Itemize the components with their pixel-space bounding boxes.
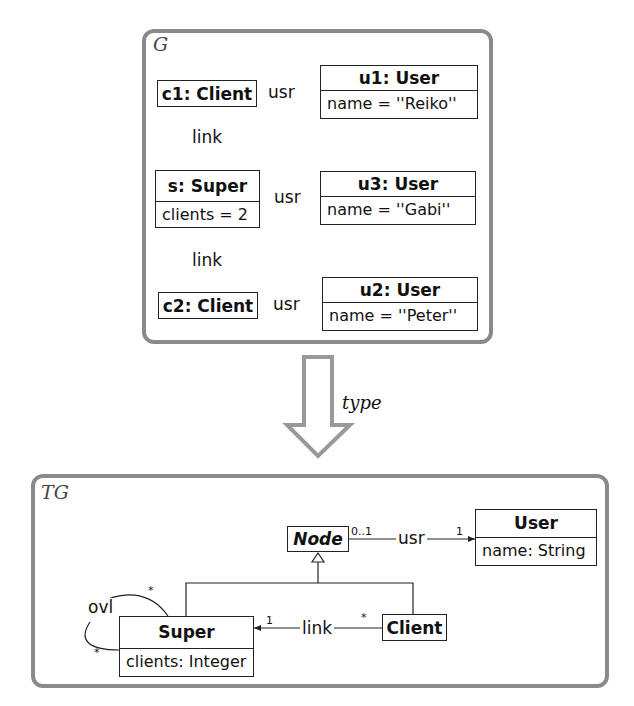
node-attribute: name = ''Reiko'' — [321, 90, 477, 117]
node-u3-user[interactable]: u3: User name = ''Gabi'' — [320, 171, 476, 225]
type-arrow — [287, 357, 350, 456]
node-u2-user[interactable]: u2: User name = ''Peter'' — [322, 277, 478, 331]
type-node-client[interactable]: Client — [382, 614, 447, 641]
node-c2-client[interactable]: c2: Client — [158, 292, 258, 319]
node-title: u1: User — [321, 66, 477, 90]
type-graph-frame — [31, 474, 609, 688]
node-title: s: Super — [156, 171, 259, 201]
link-target-multiplicity: 1 — [266, 615, 273, 626]
node-title: c2: Client — [163, 296, 254, 316]
edge-label-ovl: ovl — [86, 598, 115, 616]
node-attribute: name = ''Peter'' — [323, 302, 477, 329]
edge-label-c2-u2: usr — [271, 295, 302, 313]
instance-graph-label: G — [153, 33, 168, 55]
type-node-node[interactable]: Node — [287, 526, 349, 552]
node-title: u2: User — [323, 278, 477, 302]
node-c1-client[interactable]: c1: Client — [157, 80, 257, 107]
type-node-user[interactable]: User name: String — [475, 509, 597, 566]
node-attribute: clients = 2 — [156, 201, 259, 228]
node-title: Node — [293, 529, 343, 549]
node-title: c1: Client — [162, 84, 253, 104]
node-attribute: clients: Integer — [120, 648, 253, 675]
node-title: User — [476, 510, 596, 537]
node-title: u3: User — [321, 172, 475, 196]
edge-label-c1-s: link — [190, 128, 224, 146]
usr-target-multiplicity: 1 — [456, 526, 463, 537]
node-s-super[interactable]: s: Super clients = 2 — [155, 170, 260, 228]
type-node-super[interactable]: Super clients: Integer — [119, 616, 254, 677]
node-title: Super — [120, 617, 253, 648]
node-attribute: name = ''Gabi'' — [321, 196, 475, 223]
node-title: Client — [387, 618, 443, 638]
edge-label-s-u3: usr — [272, 188, 303, 206]
usr-source-multiplicity: 0..1 — [351, 526, 372, 537]
edge-label-link: link — [300, 619, 334, 637]
edge-label-usr: usr — [396, 529, 427, 547]
edge-label-c2-s: link — [190, 251, 224, 269]
link-source-multiplicity: * — [361, 612, 367, 623]
node-u1-user[interactable]: u1: User name = ''Reiko'' — [320, 65, 478, 119]
edge-label-c1-u1: usr — [266, 83, 297, 101]
ovl-target-multiplicity: * — [148, 585, 154, 596]
ovl-source-multiplicity: * — [94, 647, 100, 658]
type-graph-label: TG — [41, 481, 69, 503]
type-arrow-label: type — [342, 392, 382, 413]
node-attribute: name: String — [476, 537, 596, 564]
